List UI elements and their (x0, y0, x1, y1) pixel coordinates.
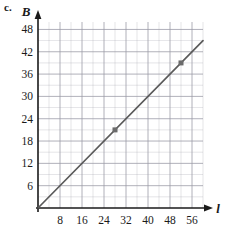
minor-gridlines (38, 22, 203, 208)
x-tick-label: 48 (164, 214, 176, 226)
y-axis-label: B (21, 4, 31, 19)
figure-container: c. 8162432404856 612182430364248 B l (0, 0, 225, 231)
data-point-marker (179, 60, 184, 65)
y-tick-label: 36 (22, 68, 34, 80)
y-tick-label: 24 (22, 113, 34, 125)
y-axis-tick-labels: 612182430364248 (22, 23, 34, 191)
y-axis-arrowhead (35, 10, 42, 19)
x-tick-label: 56 (186, 214, 198, 226)
x-tick-label: 8 (57, 214, 63, 226)
y-tick-label: 12 (22, 157, 34, 169)
y-tick-label: 48 (22, 23, 34, 35)
y-tick-label: 42 (22, 46, 34, 58)
axes (35, 10, 213, 212)
x-axis-label: l (216, 201, 220, 216)
chart-plot: 8162432404856 612182430364248 B l (0, 0, 225, 231)
x-axis-arrowhead (204, 205, 213, 212)
y-tick-label: 30 (22, 90, 34, 102)
major-gridlines (38, 22, 203, 208)
data-series (38, 41, 203, 208)
y-tick-label: 18 (22, 135, 34, 147)
x-tick-label: 24 (98, 214, 110, 226)
x-tick-label: 40 (142, 214, 154, 226)
data-point-marker (113, 127, 118, 132)
y-tick-label: 6 (27, 180, 33, 192)
x-axis-tick-labels: 8162432404856 (57, 214, 198, 226)
x-tick-label: 32 (120, 214, 132, 226)
x-tick-label: 16 (76, 214, 88, 226)
series-line (38, 41, 203, 208)
